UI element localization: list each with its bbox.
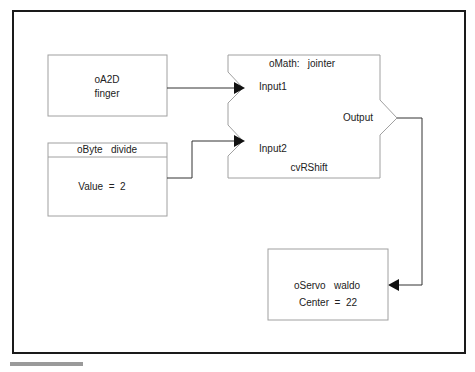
node-oservo-title: oServo waldo — [294, 280, 360, 292]
node-oservo-value: Center = 22 — [299, 297, 357, 309]
node-obyte-value: Value = 2 — [78, 181, 125, 193]
node-omath-input2-label: Input2 — [259, 143, 287, 155]
node-omath-function: cvRShift — [290, 162, 327, 174]
node-omath-input1-label: Input1 — [259, 81, 287, 93]
node-obyte-header: oByte divide — [77, 144, 137, 156]
wire-output-to-servo[interactable] — [397, 118, 422, 285]
node-omath-title: oMath: jointer — [269, 58, 335, 70]
node-oa2d-type: oA2D — [94, 74, 119, 86]
arrowhead-servo-icon — [388, 279, 399, 291]
diagram-canvas — [0, 0, 475, 372]
node-omath-output-label: Output — [343, 112, 373, 124]
wire-byte-to-input2[interactable] — [167, 141, 236, 178]
node-oa2d-name: finger — [94, 88, 119, 100]
horizontal-scrollbar[interactable] — [10, 362, 83, 366]
